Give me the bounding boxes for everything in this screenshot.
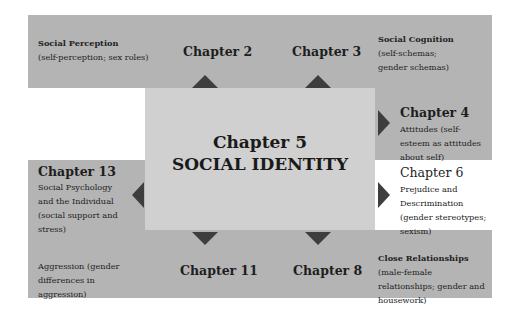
chapter-11-topic: Aggression (gender differences in aggres… xyxy=(38,259,133,301)
chapter-2-label: Chapter 2 xyxy=(183,44,252,59)
chapter-11-label: Chapter 11 xyxy=(180,263,258,278)
center-chapter-label: Chapter 5 xyxy=(145,132,375,152)
chapter-3-topic: Social Cognition xyxy=(378,32,454,46)
arrow-right-icon xyxy=(378,110,390,136)
chapter-2-detail: (self-perception; sex roles) xyxy=(38,50,148,64)
chapter-3-detail: (self-schemas; gender schemas) xyxy=(378,46,468,74)
arrow-down-icon xyxy=(192,232,218,245)
arrow-down-icon xyxy=(305,232,331,245)
chapter-4-label: Chapter 4 xyxy=(400,105,469,120)
left-blank-area xyxy=(28,88,145,160)
chapter-13-label: Chapter 13 xyxy=(38,164,116,179)
chapter-4-topic: Attitudes (self-esteem as attitudes abou… xyxy=(400,122,490,164)
chapter-8-label: Chapter 8 xyxy=(293,263,362,278)
chapter-2-topic: Social Perception xyxy=(38,36,118,50)
arrow-left-icon xyxy=(132,182,144,208)
chapter-8-topic: Close Relationships xyxy=(378,251,469,265)
chapter-6-topic: Prejudice and Descrimination (gender ste… xyxy=(400,182,495,238)
chapter-8-detail: (male-female relationships; gender and h… xyxy=(378,265,488,307)
arrow-right-icon xyxy=(378,182,390,208)
chapter-6-label: Chapter 6 xyxy=(400,165,463,180)
chapter-13-topic: Social Psychology and the Individual (so… xyxy=(38,180,120,236)
chapter-3-label: Chapter 3 xyxy=(292,44,361,59)
arrow-up-icon xyxy=(192,75,218,88)
center-title: SOCIAL IDENTITY xyxy=(145,154,375,174)
arrow-up-icon xyxy=(305,75,331,88)
